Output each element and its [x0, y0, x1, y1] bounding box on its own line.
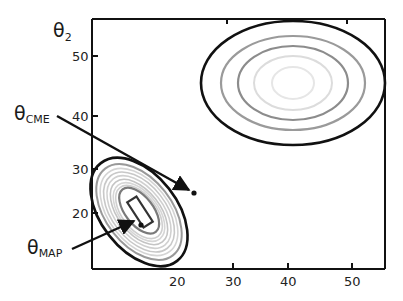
y-axis-label: θ2: [53, 21, 72, 41]
x-tick-label-50: 50: [344, 275, 361, 288]
x-tick-label-20: 20: [169, 275, 186, 288]
theta-map-label: θMAP: [27, 238, 62, 258]
x-tick-label-40: 40: [280, 275, 297, 288]
broad-mode-contours: [201, 21, 385, 145]
y-tick-label-50: 50: [72, 50, 89, 63]
y-tick-label-30: 30: [72, 163, 89, 176]
subscript: MAP: [39, 247, 63, 260]
y-tick-label-20: 20: [72, 207, 89, 220]
x-tick-label-30: 30: [225, 275, 242, 288]
cme-point: [191, 190, 196, 195]
y-tick-label-40: 40: [72, 110, 89, 123]
subscript: 2: [65, 31, 72, 44]
theta-cme-label: θCME: [14, 104, 50, 124]
subscript: CME: [26, 113, 50, 126]
map-point: [138, 222, 143, 227]
theta-symbol: θ: [27, 236, 39, 258]
theta-symbol: θ: [14, 102, 26, 124]
theta-symbol: θ: [53, 19, 65, 41]
plot-frame: [92, 19, 385, 269]
